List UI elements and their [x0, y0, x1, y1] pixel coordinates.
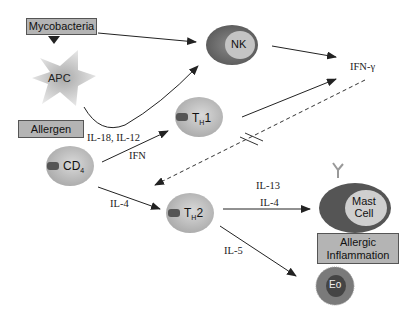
- allergic-inflammation-line2: Inflammation: [318, 249, 398, 262]
- il13-label: IL-13: [256, 180, 280, 191]
- th2-marker: [168, 209, 180, 217]
- arrow-cd4-to-th2: [98, 187, 160, 209]
- th1-marker: [176, 113, 188, 121]
- th1-label: TH1: [192, 111, 211, 126]
- il18-il12-label: IL-18, IL-12: [87, 132, 140, 143]
- apc-label: APC: [48, 72, 71, 84]
- ifn-gamma-label: IFN-γ: [350, 61, 375, 72]
- allergen-label: Allergen: [31, 123, 71, 135]
- cd4-label: CD4: [63, 159, 84, 174]
- il5-label: IL-5: [224, 245, 243, 256]
- down-arrow-icon: [48, 36, 60, 44]
- receptor-icon: [333, 163, 343, 178]
- mycobacteria-label: Mycobacteria: [29, 20, 94, 32]
- th2-label: TH2: [184, 206, 203, 221]
- il4-left-label: IL-4: [110, 198, 129, 209]
- arrow-nk-to-ifn-gamma: [272, 46, 336, 57]
- allergic-inflammation-box: Allergic Inflammation: [317, 233, 399, 264]
- eo-label: Eo: [329, 279, 341, 290]
- nk-label: NK: [231, 38, 246, 50]
- block-mark-2: [245, 133, 263, 141]
- ifn-label: IFN: [129, 150, 146, 161]
- mast-cell-label: Mast Cell: [352, 195, 376, 219]
- il4-right-label: IL-4: [260, 197, 279, 208]
- arrow-th1-to-ifn-gamma: [242, 79, 336, 117]
- cd4-marker: [47, 162, 59, 170]
- allergic-inflammation-line1: Allergic: [318, 236, 398, 249]
- arrow-mycobacteria-to-nk: [98, 33, 196, 42]
- allergen-box: Allergen: [18, 120, 84, 138]
- mycobacteria-box: Mycobacteria: [26, 18, 97, 35]
